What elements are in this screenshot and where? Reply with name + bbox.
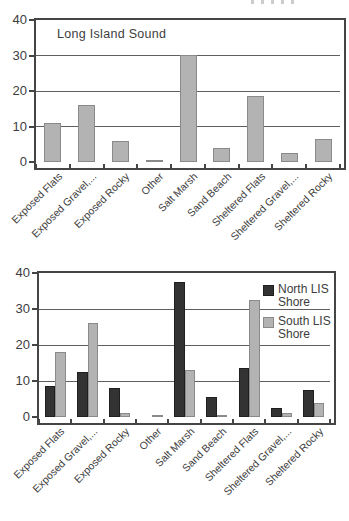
y-axis-tick <box>29 55 34 57</box>
bar <box>217 415 228 417</box>
y-axis-tick <box>32 416 37 418</box>
bar <box>314 403 325 417</box>
y-axis-tick-label: 40 <box>0 12 27 28</box>
bar <box>55 352 66 417</box>
bar <box>315 139 332 162</box>
y-axis-tick <box>29 90 34 92</box>
bar <box>174 282 185 417</box>
x-axis-tick <box>69 164 71 168</box>
y-axis-tick <box>29 161 34 163</box>
scan-artifact <box>251 0 297 4</box>
x-axis-tick <box>200 419 202 423</box>
bar <box>146 160 163 162</box>
x-axis-tick <box>305 164 307 168</box>
y-axis-tick <box>29 19 34 21</box>
bar <box>206 397 217 417</box>
bar <box>247 96 264 162</box>
y-axis-tick-label: 0 <box>1 409 30 425</box>
x-axis-tick <box>339 164 341 168</box>
bar <box>78 105 95 162</box>
bar <box>282 413 293 417</box>
bar <box>303 390 314 417</box>
y-axis-tick <box>32 380 37 382</box>
chart-title: Long Island Sound <box>57 27 166 41</box>
x-axis-tick <box>135 419 137 423</box>
y-axis-tick <box>29 126 34 128</box>
bar <box>281 153 298 162</box>
x-axis-tick <box>38 419 40 423</box>
y-axis-tick <box>32 272 37 274</box>
bar <box>44 123 61 162</box>
legend-label: South LIS Shore <box>278 315 344 341</box>
y-axis-tick-label: 30 <box>1 301 30 317</box>
figure-two-bar-charts: Long Island Sound 010203040Exposed Flats… <box>0 0 349 521</box>
bar <box>152 415 163 417</box>
x-axis-tick <box>103 164 105 168</box>
bar <box>77 372 88 417</box>
bar <box>249 300 260 417</box>
x-axis-tick <box>167 419 169 423</box>
y-axis-tick-label: 0 <box>0 154 27 170</box>
bar <box>88 323 99 417</box>
bar <box>112 141 129 162</box>
bar <box>185 370 196 417</box>
x-axis-tick <box>103 419 105 423</box>
x-axis-tick <box>70 419 72 423</box>
x-axis-tick <box>35 164 37 168</box>
bar <box>271 408 282 417</box>
x-axis-tick <box>204 164 206 168</box>
y-axis-tick <box>32 308 37 310</box>
x-axis-tick <box>232 419 234 423</box>
x-axis-tick <box>264 419 266 423</box>
x-axis-tick <box>271 164 273 168</box>
y-axis-tick-label: 20 <box>0 83 27 99</box>
x-axis-tick <box>329 419 331 423</box>
bar <box>45 386 56 417</box>
y-axis-tick-label: 10 <box>1 373 30 389</box>
bar <box>120 413 131 417</box>
y-axis-tick-label: 40 <box>1 265 30 281</box>
legend-swatch <box>263 285 274 296</box>
gridline <box>39 345 330 346</box>
bar <box>239 368 250 417</box>
bar <box>180 55 197 162</box>
x-axis-tick <box>297 419 299 423</box>
legend-swatch <box>263 317 274 328</box>
x-axis-tick <box>136 164 138 168</box>
y-axis-tick-label: 20 <box>1 337 30 353</box>
bar <box>109 388 120 417</box>
y-axis-tick <box>32 344 37 346</box>
legend-label: North LIS Shore <box>278 283 344 309</box>
x-axis-tick <box>170 164 172 168</box>
y-axis-tick-label: 10 <box>0 119 27 135</box>
x-axis-tick <box>238 164 240 168</box>
y-axis-tick-label: 30 <box>0 48 27 64</box>
bar <box>213 148 230 162</box>
